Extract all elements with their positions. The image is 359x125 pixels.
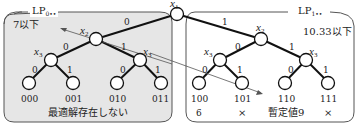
edge-label-0: 0	[63, 43, 69, 52]
right-x2-label: x2	[256, 22, 264, 35]
lp1-sub: 1••	[311, 10, 322, 17]
leaf-label: 010	[109, 95, 126, 104]
leaf-label: 100	[191, 95, 208, 104]
lp0-label: LP0••	[30, 6, 58, 17]
edge-label-0: 0	[124, 18, 130, 27]
x3-label: x3	[309, 46, 317, 59]
edge-label-1: 1	[289, 43, 295, 52]
edge-label-0: 0	[235, 43, 241, 52]
edge-label-1: 1	[237, 66, 243, 75]
lp1-title: LP	[298, 5, 311, 16]
lp0-footer: 最適解存在しない	[48, 108, 128, 118]
x3-label: x3	[34, 46, 42, 59]
x3-label: x3	[204, 46, 212, 59]
edge-label-0: 0	[288, 66, 294, 75]
leaf-label: 001	[65, 95, 82, 104]
edge-label-1: 1	[222, 18, 228, 27]
edge-label-1: 1	[121, 43, 127, 52]
result-111: ×	[324, 108, 332, 118]
leaf-label: 101	[234, 95, 251, 104]
result-110: 暫定値9	[268, 108, 304, 118]
root-var-label: x1	[170, 0, 178, 11]
left-x2-label: x2	[80, 25, 88, 38]
leaf-label: 111	[320, 95, 337, 104]
lp0-bound: 7以下	[13, 20, 39, 30]
leaf-label: 011	[152, 95, 169, 104]
result-101: ×	[238, 108, 246, 118]
edge-label-1: 1	[155, 66, 161, 75]
edge-label-0: 0	[202, 66, 208, 75]
lp0-title: LP	[32, 5, 45, 16]
leaf-label: 000	[21, 95, 38, 104]
result-100: 6	[196, 109, 202, 118]
lp1-bound: 10.33以下	[303, 27, 352, 37]
lp1-label: LP1••	[296, 6, 324, 17]
lp0-sub: 0••	[45, 10, 56, 17]
x3-label: x3	[143, 46, 151, 59]
leaf-label: 110	[278, 95, 295, 104]
edge-label-1: 1	[323, 66, 329, 75]
edge-label-0: 0	[32, 66, 38, 75]
node-left-x2	[90, 33, 103, 46]
edge-label-0: 0	[120, 66, 126, 75]
edge-label-1: 1	[67, 66, 73, 75]
